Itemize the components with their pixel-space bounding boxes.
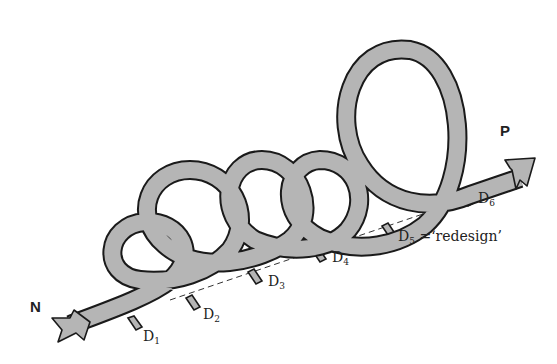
spiral-band bbox=[70, 49, 520, 325]
svg-text:D2: D2 bbox=[203, 306, 220, 324]
svg-text:D1: D1 bbox=[143, 328, 160, 346]
process-spiral-diagram: N P D1 D2 D3 D4 D5 =‘redesign’ D6 bbox=[0, 0, 557, 364]
stage-label-d1: D1 bbox=[143, 328, 160, 346]
stage-label-d2: D2 bbox=[203, 306, 220, 324]
svg-text:D3: D3 bbox=[268, 273, 285, 291]
stage-label-d3: D3 bbox=[268, 273, 285, 291]
end-label-p: P bbox=[500, 122, 510, 139]
tick-d1 bbox=[128, 316, 142, 330]
tick-d3 bbox=[248, 269, 262, 284]
start-label-n: N bbox=[30, 298, 41, 315]
tick-d2 bbox=[186, 295, 200, 310]
